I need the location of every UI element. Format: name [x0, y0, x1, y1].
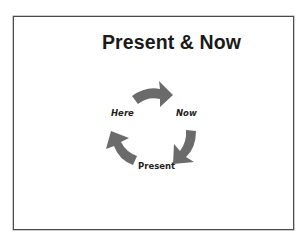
- cycle-label-now: Now: [176, 108, 197, 118]
- curved-arrow-right-icon: [132, 81, 173, 107]
- curved-arrow-up-left-icon: [106, 131, 137, 165]
- cycle-label-present: Present: [138, 161, 175, 171]
- curved-arrow-down-left-icon: [173, 130, 196, 164]
- cycle-label-here: Here: [111, 108, 134, 118]
- cycle-diagram: [0, 0, 300, 241]
